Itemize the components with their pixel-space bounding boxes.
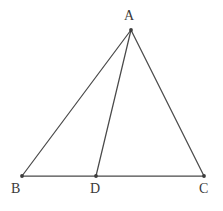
vertex-point-a bbox=[129, 28, 133, 32]
vertex-label-d: D bbox=[90, 182, 100, 196]
vertex-label-b: B bbox=[11, 182, 21, 196]
geometry-figure: A B D C bbox=[0, 0, 223, 211]
vertex-point-b bbox=[20, 174, 24, 178]
vertex-label-c: C bbox=[199, 182, 209, 196]
segment-ac bbox=[131, 30, 204, 176]
vertex-label-a: A bbox=[124, 9, 134, 23]
triangle-diagram-canvas bbox=[0, 0, 223, 211]
vertex-point-c bbox=[202, 174, 206, 178]
segment-ad bbox=[96, 30, 131, 176]
segment-ab bbox=[22, 30, 131, 176]
vertex-point-d bbox=[94, 174, 98, 178]
